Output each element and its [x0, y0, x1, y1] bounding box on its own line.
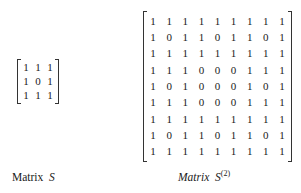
matrix-cell: 0	[226, 95, 242, 111]
matrix-cell: 1	[32, 88, 44, 102]
matrix-cell: 1	[242, 46, 258, 62]
matrix-cell: 1	[193, 46, 209, 62]
matrix-cell: 1	[274, 78, 290, 94]
matrix-cell: 1	[242, 78, 258, 94]
matrix-cell: 0	[193, 95, 209, 111]
matrix-cell: 1	[226, 46, 242, 62]
matrix-cell: 0	[209, 95, 225, 111]
matrix-s2-grid: 1111111111011011011111111111110001111010…	[145, 13, 290, 160]
matrix-cell: 1	[177, 95, 193, 111]
matrix-cell: 1	[193, 127, 209, 143]
matrix-cell: 1	[145, 78, 161, 94]
matrix-cell: 0	[161, 127, 177, 143]
matrix-cell: 1	[274, 111, 290, 127]
matrix-cell: 1	[209, 144, 225, 160]
matrix-cell: 1	[274, 95, 290, 111]
caption-symbol: S	[49, 171, 55, 183]
caption-word: Matrix	[12, 171, 43, 183]
matrix-cell: 1	[274, 144, 290, 160]
matrix-cell: 1	[274, 62, 290, 78]
matrix-s-grid: 111101111	[20, 61, 56, 102]
matrix-cell: 1	[209, 111, 225, 127]
matrix-cell: 1	[177, 62, 193, 78]
matrix-s-caption: Matrix S	[12, 171, 55, 183]
matrix-cell: 1	[209, 13, 225, 29]
caption-superscript: (2)	[221, 169, 230, 178]
matrix-cell: 1	[145, 127, 161, 143]
matrix-cell: 1	[177, 127, 193, 143]
matrix-cell: 1	[32, 61, 44, 75]
matrix-cell: 1	[193, 13, 209, 29]
matrix-s2-caption: Matrix S(2)	[178, 171, 230, 183]
matrix-cell: 1	[177, 78, 193, 94]
matrix-cell: 1	[177, 144, 193, 160]
matrix-cell: 1	[258, 46, 274, 62]
matrix-cell: 1	[145, 111, 161, 127]
matrix-cell: 1	[226, 127, 242, 143]
matrix-cell: 1	[161, 46, 177, 62]
matrix-cell: 1	[161, 111, 177, 127]
matrix-cell: 1	[274, 127, 290, 143]
matrix-cell: 0	[209, 78, 225, 94]
matrix-cell: 1	[258, 144, 274, 160]
matrix-cell: 0	[193, 62, 209, 78]
matrix-cell: 1	[258, 62, 274, 78]
matrix-cell: 0	[193, 78, 209, 94]
matrix-cell: 1	[177, 13, 193, 29]
matrix-cell: 0	[209, 127, 225, 143]
caption-word: Matrix	[178, 171, 209, 183]
matrix-cell: 1	[258, 111, 274, 127]
matrix-cell: 1	[193, 144, 209, 160]
matrix-cell: 0	[258, 78, 274, 94]
matrix-cell: 0	[209, 62, 225, 78]
matrix-s2: 1111111111011011011111111111110001111010…	[143, 11, 292, 162]
matrix-cell: 1	[274, 46, 290, 62]
matrix-cell: 0	[209, 29, 225, 45]
matrix-cell: 0	[226, 62, 242, 78]
matrix-cell: 1	[145, 62, 161, 78]
matrix-cell: 1	[242, 29, 258, 45]
matrix-cell: 1	[145, 144, 161, 160]
matrix-cell: 0	[161, 78, 177, 94]
matrix-cell: 1	[20, 75, 32, 89]
matrix-cell: 1	[242, 62, 258, 78]
matrix-cell: 1	[193, 29, 209, 45]
matrix-cell: 1	[242, 111, 258, 127]
matrix-cell: 1	[242, 95, 258, 111]
matrix-cell: 1	[161, 95, 177, 111]
matrix-cell: 1	[44, 75, 56, 89]
matrix-cell: 1	[209, 46, 225, 62]
matrix-cell: 1	[226, 13, 242, 29]
matrix-cell: 1	[20, 88, 32, 102]
matrix-cell: 1	[145, 29, 161, 45]
matrix-cell: 0	[226, 78, 242, 94]
matrix-cell: 1	[258, 95, 274, 111]
matrix-cell: 1	[177, 111, 193, 127]
matrix-cell: 1	[20, 61, 32, 75]
matrix-cell: 1	[193, 111, 209, 127]
matrix-cell: 1	[161, 13, 177, 29]
matrix-cell: 1	[258, 13, 274, 29]
matrix-s: 111101111	[17, 59, 59, 104]
matrix-cell: 1	[226, 111, 242, 127]
matrix-cell: 1	[44, 61, 56, 75]
matrix-cell: 1	[161, 62, 177, 78]
matrix-cell: 1	[274, 13, 290, 29]
matrix-cell: 1	[226, 29, 242, 45]
matrix-cell: 1	[145, 13, 161, 29]
matrix-cell: 1	[242, 144, 258, 160]
matrix-cell: 1	[177, 46, 193, 62]
matrix-cell: 0	[32, 75, 44, 89]
matrix-cell: 1	[44, 88, 56, 102]
matrix-cell: 1	[177, 29, 193, 45]
matrix-cell: 1	[242, 127, 258, 143]
matrix-cell: 1	[145, 46, 161, 62]
matrix-cell: 0	[258, 127, 274, 143]
matrix-cell: 1	[274, 29, 290, 45]
matrix-cell: 1	[242, 13, 258, 29]
matrix-cell: 0	[258, 29, 274, 45]
matrix-cell: 1	[145, 95, 161, 111]
matrix-cell: 1	[161, 144, 177, 160]
matrix-cell: 0	[161, 29, 177, 45]
matrix-cell: 1	[226, 144, 242, 160]
